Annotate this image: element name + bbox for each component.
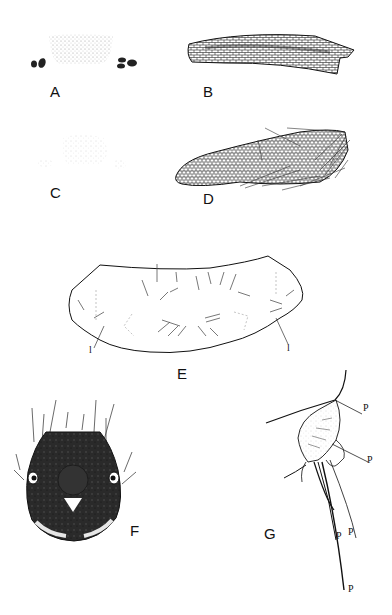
panel-c-drawing [37, 135, 126, 170]
panel-d-drawing [176, 128, 350, 190]
panel-label-a: A [50, 84, 60, 99]
panel-label-b: B [203, 84, 213, 99]
panel-label-c: C [50, 185, 61, 200]
marker-e-right: l [287, 343, 290, 353]
panel-f-drawing [14, 400, 136, 541]
panel-a-drawing [31, 34, 137, 69]
marker-e-left: l [89, 345, 92, 355]
panel-label-f: F [130, 523, 139, 538]
panel-label-e: E [177, 366, 187, 381]
panel-label-g: G [264, 526, 276, 541]
marker-g-p2: P [367, 455, 373, 465]
marker-g-p3: P [348, 527, 354, 537]
marker-g-p1: P [363, 403, 369, 413]
panel-g-drawing [266, 370, 368, 590]
marker-g-p5: P [348, 584, 354, 594]
panel-label-d: D [203, 191, 214, 206]
panel-e-drawing [69, 256, 303, 353]
marker-g-p4: P [336, 531, 342, 541]
panel-b-drawing [188, 35, 354, 74]
